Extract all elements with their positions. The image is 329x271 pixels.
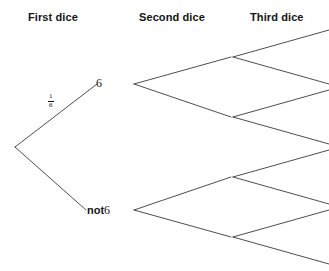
tree-edge-second_d-to-third_7 (233, 210, 329, 237)
fraction-denominator: 6 (48, 102, 54, 109)
tree-edge-second_c-to-third_6 (233, 177, 329, 204)
tree-branch-lines (0, 0, 329, 271)
tree-edge-second_c-to-third_5 (233, 150, 329, 177)
node-label-first-not-six: not6 (87, 203, 110, 218)
fraction-numerator: 1 (48, 93, 54, 100)
branch-probability-one-sixth: 1 6 (48, 93, 54, 109)
node-label-first-six: 6 (96, 76, 102, 91)
tree-edge-second_b-to-third_4 (233, 117, 329, 144)
tree-edge-root-to-first_not6 (15, 147, 86, 210)
tree-edge-first_six-to-second_b (134, 84, 231, 117)
not-six-numeral: 6 (104, 203, 110, 217)
tree-edge-second_d-to-third_8 (233, 237, 329, 264)
tree-edge-first_not6-to-second_c (134, 177, 231, 210)
not-six-bold-word: not (87, 204, 104, 216)
tree-edge-root-to-first_six (15, 84, 97, 147)
tree-edge-second_a-to-third_2 (233, 57, 329, 84)
tree-edge-first_not6-to-second_d (134, 210, 231, 237)
tree-edge-first_six-to-second_a (134, 57, 231, 84)
probability-tree-diagram: First dice Second dice Third dice 6 not6… (0, 0, 329, 271)
tree-edge-second_a-to-third_1 (233, 30, 329, 57)
tree-edge-second_b-to-third_3 (233, 90, 329, 117)
